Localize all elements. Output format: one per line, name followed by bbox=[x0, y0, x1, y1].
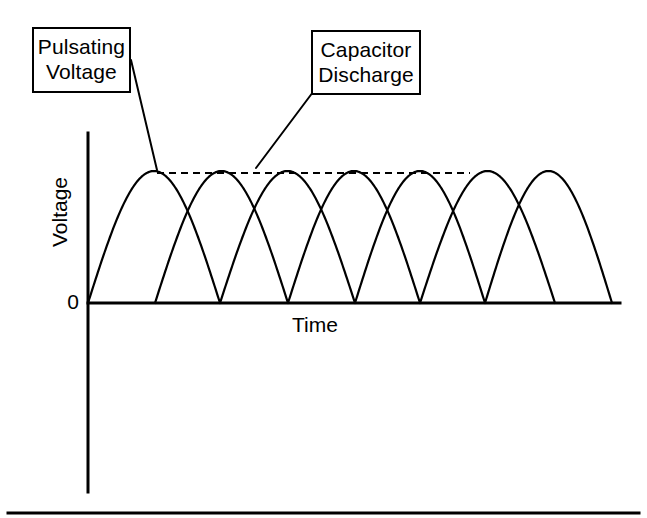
half-cycle-arch-6 bbox=[420, 171, 555, 303]
callout-capacitor-discharge-line2: Discharge bbox=[318, 63, 413, 88]
half-cycle-arch-2 bbox=[155, 171, 288, 303]
half-cycle-arch-5 bbox=[355, 171, 485, 303]
x-axis-title: Time bbox=[292, 313, 338, 337]
origin-tick-label: 0 bbox=[67, 290, 79, 314]
pulsating-voltage-figure: Pulsating Voltage Capacitor Discharge Vo… bbox=[0, 0, 647, 518]
callout-pulsating-voltage-line2: Voltage bbox=[46, 60, 117, 85]
callout-box-capacitor-discharge: Capacitor Discharge bbox=[311, 30, 421, 95]
half-cycle-arch-1 bbox=[88, 171, 220, 303]
half-cycle-arch-4 bbox=[288, 171, 420, 303]
callout-box-pulsating-voltage: Pulsating Voltage bbox=[32, 27, 131, 93]
rectified-waveform-arches bbox=[88, 171, 612, 303]
leader-line-pulsating-voltage bbox=[131, 60, 157, 170]
leader-line-capacitor-discharge bbox=[256, 92, 313, 168]
callout-pulsating-voltage-line1: Pulsating bbox=[38, 35, 125, 60]
half-cycle-arch-3 bbox=[220, 171, 355, 303]
callout-capacitor-discharge-line1: Capacitor bbox=[321, 38, 412, 63]
y-axis-title: Voltage bbox=[48, 177, 72, 247]
